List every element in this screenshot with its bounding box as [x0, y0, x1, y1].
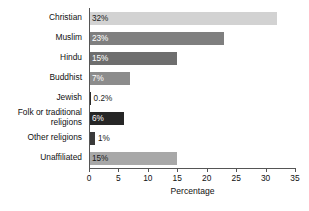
- category-label: Hindu: [0, 53, 82, 62]
- category-label: Unaffiliated: [0, 153, 82, 162]
- x-tick-label: 20: [197, 173, 217, 183]
- bar: [89, 12, 277, 25]
- bar-value-label: 15%: [92, 52, 108, 65]
- plot-area: 32%23%15%7%0.2%6%1%15%: [89, 8, 295, 168]
- bar-value-label: 23%: [92, 32, 108, 45]
- bar-value-label: 32%: [92, 12, 108, 25]
- category-label: Jewish: [0, 93, 82, 102]
- x-tick-label: 5: [108, 173, 128, 183]
- bar-value-label: 6%: [92, 112, 104, 125]
- bar-value-label: 0.2%: [94, 92, 113, 105]
- x-axis-title: Percentage: [89, 186, 296, 196]
- x-tick-mark: [118, 169, 119, 172]
- bar-value-label: 7%: [92, 72, 104, 85]
- category-label: Christian: [0, 13, 82, 22]
- bar-value-label: 15%: [92, 152, 108, 165]
- category-label: Buddhist: [0, 73, 82, 82]
- category-axis-labels: ChristianMuslimHinduBuddhistJewishFolk o…: [0, 8, 86, 168]
- x-tick-mark: [177, 169, 178, 172]
- x-tick-mark: [295, 169, 296, 172]
- bar-chart: ChristianMuslimHinduBuddhistJewishFolk o…: [0, 0, 309, 211]
- x-tick-label: 15: [167, 173, 187, 183]
- x-tick-mark: [148, 169, 149, 172]
- x-tick-label: 10: [138, 173, 158, 183]
- x-tick-label: 30: [256, 173, 276, 183]
- x-tick-mark: [266, 169, 267, 172]
- x-tick-label: 35: [285, 173, 305, 183]
- category-label: Muslim: [0, 33, 82, 42]
- x-tick-mark: [89, 169, 90, 172]
- x-tick-mark: [236, 169, 237, 172]
- bar-value-label: 1%: [98, 132, 110, 145]
- x-tick-mark: [207, 169, 208, 172]
- category-label: Folk or traditional religions: [0, 108, 82, 127]
- x-tick-label: 25: [226, 173, 246, 183]
- x-tick-label: 0: [79, 173, 99, 183]
- y-axis-line: [89, 8, 90, 168]
- bar: [89, 32, 224, 45]
- category-label: Other religions: [0, 133, 82, 142]
